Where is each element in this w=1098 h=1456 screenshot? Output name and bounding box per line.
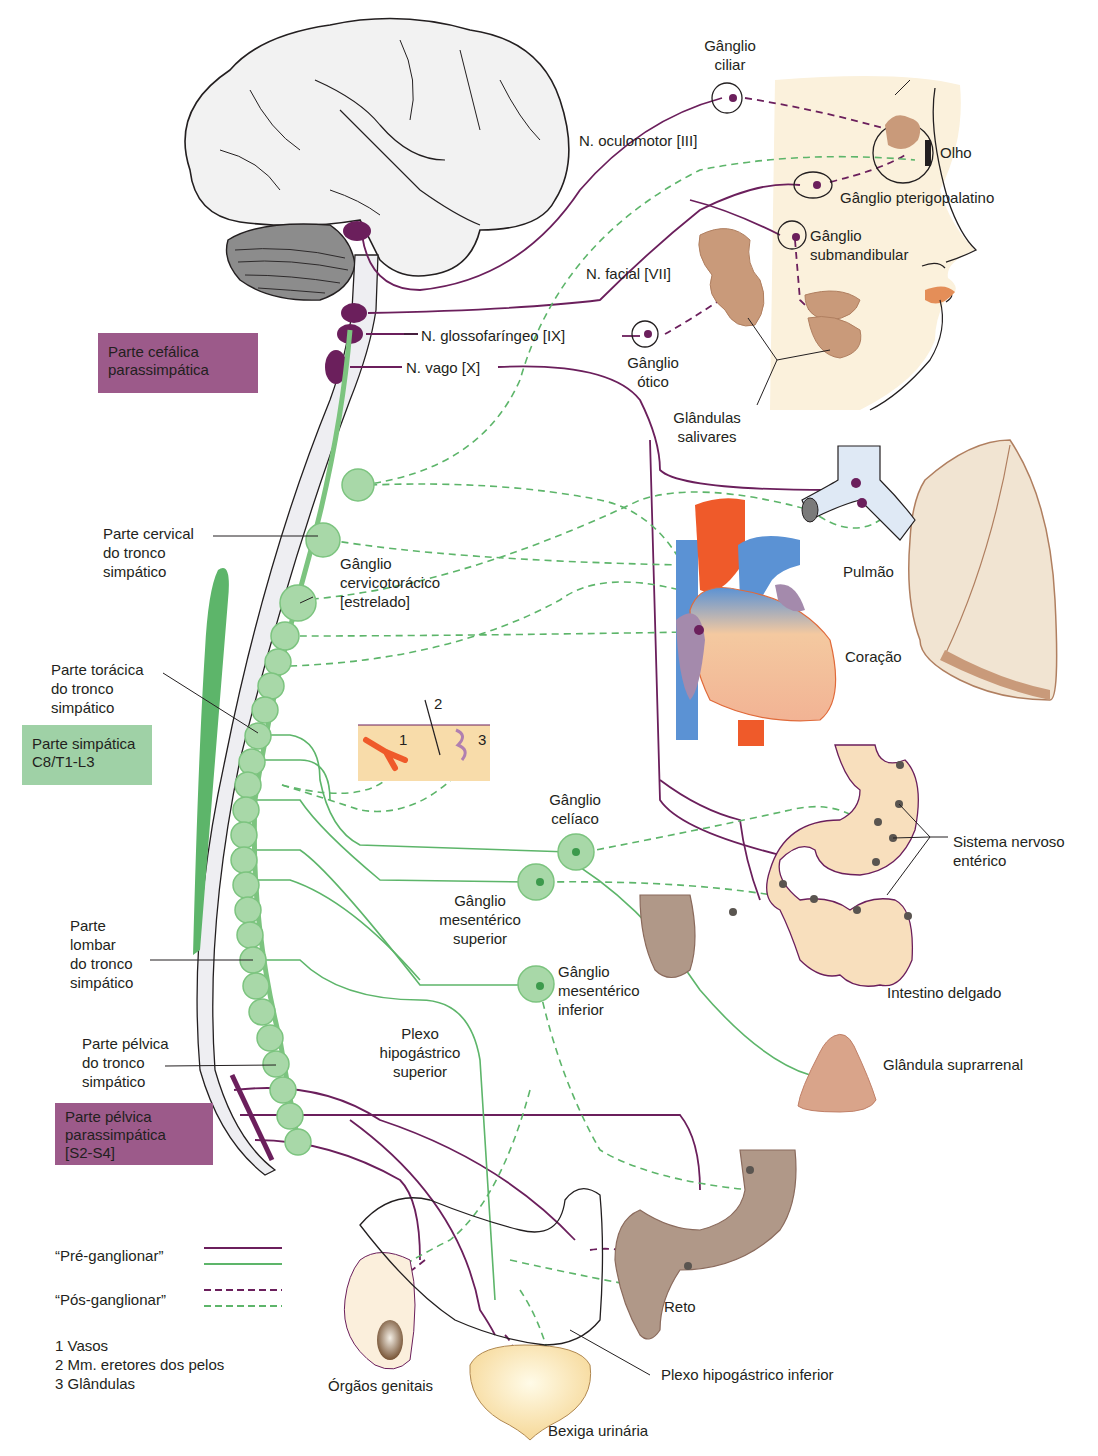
sympathetic-box: Parte simpática C8/T1-L3 — [22, 725, 152, 785]
ciliary-ganglion-label: Gânglio ciliar — [695, 36, 765, 74]
genitals-illustration — [344, 1253, 415, 1370]
vagus-nerve-label: N. vago [X] — [406, 358, 480, 377]
legend-key: 1 Vasos 2 Mm. eretores dos pelos 3 Glând… — [55, 1336, 224, 1393]
pterygopalatine-ganglion-label: Gânglio pterigopalatino — [840, 188, 994, 207]
legend-key-item: 3 Glândulas — [55, 1374, 224, 1393]
pelvic-parasympathetic-box: Parte pélvica parassimpática [S2-S4] — [55, 1103, 213, 1165]
celiac-ganglion-label: Gânglio celíaco — [540, 790, 610, 828]
oculomotor-nerve-label: N. oculomotor [III] — [579, 131, 697, 150]
inferior-hypogastric-plexus-label: Plexo hipogástrico inferior — [661, 1365, 834, 1384]
lung-illustration — [802, 440, 1057, 700]
box-line: parassimpática — [108, 361, 248, 379]
submandibular-ganglion-label: Gânglio submandibular — [810, 226, 908, 264]
legend-key-item: 1 Vasos — [55, 1336, 224, 1355]
cervical-trunk-label: Parte cervical do tronco simpático — [103, 524, 194, 581]
box-line: Parte cefálica — [108, 343, 248, 361]
autonomic-nervous-system-diagram — [0, 0, 1098, 1456]
adrenal-gland-illustration — [798, 1034, 876, 1112]
lumbar-trunk-label: Parte lombar do tronco simpático — [70, 916, 133, 992]
pelvic-trunk-label: Parte pélvica do tronco simpático — [82, 1034, 169, 1091]
enteric-nervous-system-label: Sistema nervoso entérico — [953, 832, 1065, 870]
eye-lens — [925, 140, 931, 166]
heart-illustration — [676, 498, 836, 746]
adrenal-gland-label: Glândula suprarrenal — [883, 1055, 1023, 1074]
box-line: C8/T1-L3 — [32, 753, 142, 771]
box-line: [S2-S4] — [65, 1144, 203, 1162]
facial-nerve-label: N. facial [VII] — [586, 264, 671, 283]
inset-number-vessels: 1 — [399, 730, 407, 749]
small-intestine-label: Intestino delgado — [887, 983, 1001, 1002]
box-line: Parte pélvica — [65, 1108, 203, 1126]
cephalic-parasympathetic-box: Parte cefálica parassimpática — [98, 333, 258, 393]
inset-number-glands: 3 — [478, 730, 486, 749]
spinal-cord — [193, 255, 378, 1175]
rectum-label: Reto — [664, 1297, 696, 1316]
skin-inset — [358, 700, 490, 781]
thoracic-trunk-label: Parte torácica do tronco simpático — [51, 660, 144, 717]
legend-key-item: 2 Mm. eretores dos pelos — [55, 1355, 224, 1374]
genitals-label: Órgãos genitais — [328, 1376, 433, 1395]
legend-postganglionic-label: “Pós-ganglionar” — [55, 1290, 166, 1309]
glossopharyngeal-nerve-label: N. glossofaríngeo [IX] — [421, 326, 565, 345]
lung-label: Pulmão — [843, 562, 894, 581]
box-line: Parte simpática — [32, 735, 142, 753]
superior-mesenteric-ganglion-label: Gânglio mesentérico superior — [430, 891, 530, 948]
digestive-tract-illustration — [767, 745, 919, 986]
box-line: parassimpática — [65, 1126, 203, 1144]
heart-label: Coração — [845, 647, 902, 666]
legend-lines — [204, 1248, 282, 1306]
superior-hypogastric-plexus-label: Plexo hipogástrico superior — [370, 1024, 470, 1081]
bladder-label: Bexiga urinária — [548, 1421, 648, 1440]
inferior-mesenteric-ganglion-label: Gânglio mesentérico inferior — [558, 962, 640, 1019]
legend-preganglionic-label: “Pré-ganglionar” — [55, 1246, 163, 1265]
eye-label: Olho — [940, 143, 972, 162]
large-intestine-illustration — [615, 895, 796, 1339]
otic-ganglion-label: Gânglio ótico — [618, 353, 688, 391]
inset-number-arrector-pili: 2 — [434, 694, 442, 713]
cervicothoracic-ganglion-label: Gânglio cervicotorácico [estrelado] — [340, 554, 440, 611]
salivary-glands-label: Glândulas salivares — [662, 408, 752, 446]
